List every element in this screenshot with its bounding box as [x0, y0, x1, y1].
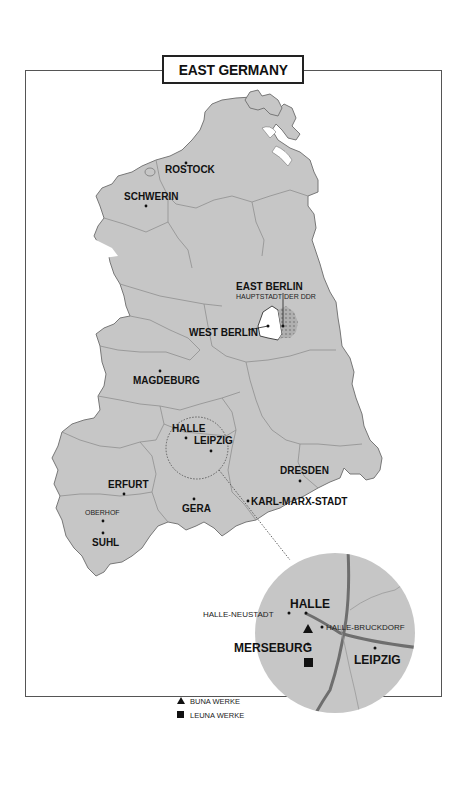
leuna-werke-square-icon: [304, 658, 313, 667]
label-suhl: SUHL: [92, 537, 119, 548]
label-magdeburg: MAGDEBURG: [133, 375, 200, 386]
label-gera: GERA: [182, 503, 211, 514]
legend-label-leuna: LEUNA WERKE: [190, 711, 244, 720]
legend-triangle-icon: [177, 697, 185, 704]
label-rostock: ROSTOCK: [165, 164, 216, 175]
map-title: EAST GERMANY: [179, 61, 288, 78]
inset-label-halle-neustadt: HALLE-NEUSTADT: [203, 610, 274, 619]
inset-label-merseburg: MERSEBURG: [234, 641, 312, 655]
legend: BUNA WERKE LEUNA WERKE: [177, 697, 244, 720]
legend-label-buna: BUNA WERKE: [190, 697, 240, 706]
inset-label-halle: HALLE: [290, 597, 330, 611]
label-schwerin: SCHWERIN: [124, 191, 178, 202]
label-west-berlin: WEST BERLIN: [189, 327, 258, 338]
label-dresden: DRESDEN: [280, 465, 329, 476]
label-oberhof: OBERHOF: [85, 509, 120, 516]
inset-label-halle-bruckdorf: HALLE-BRUCKDORF: [326, 623, 405, 632]
label-east-berlin-subtitle: HAUPTSTADT DER DDR: [236, 293, 316, 300]
inset-label-leipzig: LEIPZIG: [354, 653, 401, 667]
label-karl-marx-stadt: KARL-MARX-STADT: [251, 496, 347, 507]
inset-halle-leipzig: [255, 550, 420, 720]
label-east-berlin: EAST BERLIN: [236, 281, 303, 292]
label-halle: HALLE: [172, 423, 206, 434]
map-title-box: EAST GERMANY: [162, 55, 304, 84]
label-leipzig: LEIPZIG: [194, 435, 233, 446]
legend-square-icon: [177, 711, 184, 718]
east-germany-map: ROSTOCK SCHWERIN EAST BERLIN HAUPTSTADT …: [0, 0, 467, 796]
label-erfurt: ERFURT: [108, 479, 149, 490]
